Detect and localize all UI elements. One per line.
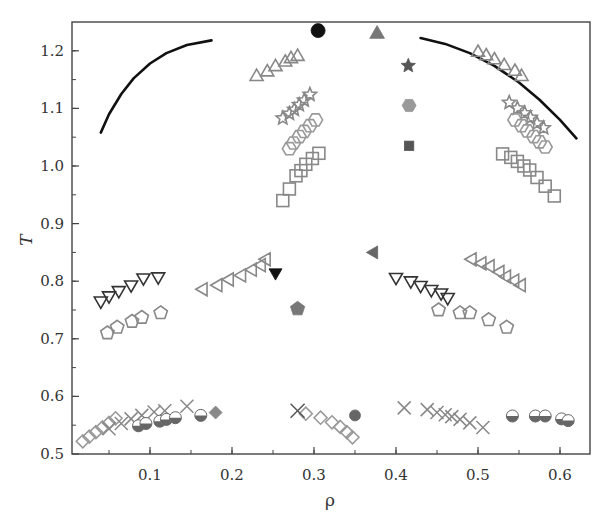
- triangle-down-marker: [390, 273, 403, 284]
- half-circle-marker: [539, 410, 551, 422]
- circle-marker: [311, 24, 325, 38]
- series-circle: [311, 24, 325, 38]
- pentagon-marker: [482, 313, 495, 326]
- triangle-down-marker: [94, 297, 107, 308]
- series-triangle-left: [196, 253, 525, 296]
- square-marker: [277, 195, 289, 207]
- series-hexagon: [402, 99, 416, 111]
- half-circle-marker: [169, 412, 181, 424]
- x-tick-label: 0.5: [466, 466, 490, 484]
- half-circle-marker: [562, 415, 574, 427]
- pentagon-marker: [290, 301, 304, 315]
- series-square: [404, 141, 413, 150]
- series-pentagon: [290, 301, 304, 315]
- coexistence-curve: [421, 38, 577, 138]
- square-marker: [404, 141, 413, 150]
- x-tick-label: 0.3: [302, 466, 326, 484]
- triangle-down-marker: [137, 274, 150, 285]
- triangle-left-marker: [222, 273, 233, 286]
- pentagon-marker: [463, 306, 476, 319]
- triangle-left-marker: [196, 283, 207, 296]
- pentagon-marker: [500, 320, 513, 333]
- x-tick-label: 0.4: [384, 466, 408, 484]
- x-marker: [180, 400, 193, 413]
- triangle-down-marker: [152, 273, 165, 284]
- triangle-left-marker: [366, 246, 377, 259]
- series-circle: [350, 410, 361, 421]
- series-triangle-left: [366, 246, 377, 259]
- pentagon-marker: [111, 320, 124, 333]
- triangle-down-marker: [125, 281, 138, 292]
- x-axis-label: ρ: [325, 490, 335, 510]
- y-tick-label: 0.6: [40, 387, 64, 405]
- x-marker: [476, 421, 489, 434]
- star-marker: [401, 58, 415, 72]
- y-tick-label: 0.8: [40, 272, 64, 290]
- y-axis-label: T: [16, 233, 36, 246]
- y-tick-label: 1.1: [40, 99, 64, 117]
- coexistence-curves: [101, 38, 577, 138]
- plot-frame: [72, 22, 590, 454]
- y-tick-label: 0.7: [40, 330, 64, 348]
- x-tick-label: 0.2: [220, 466, 244, 484]
- square-marker: [283, 183, 295, 195]
- series-pentagon: [101, 303, 514, 339]
- triangle-left-marker: [234, 269, 245, 282]
- square-marker: [313, 147, 325, 159]
- half-circle-marker: [140, 418, 152, 430]
- x-marker: [421, 403, 434, 416]
- x-tick-label: 0.6: [548, 466, 572, 484]
- x-tick-label: 0.1: [138, 466, 162, 484]
- triangle-down-marker: [441, 294, 454, 305]
- series-triangle-up: [370, 26, 385, 39]
- hexagon-marker: [538, 141, 552, 153]
- circle-marker: [350, 410, 361, 421]
- x-marker: [431, 406, 444, 419]
- series-star: [401, 58, 415, 72]
- coexistence-curve: [101, 40, 212, 132]
- pentagon-marker: [154, 306, 167, 319]
- triangle-up-marker: [370, 26, 385, 39]
- y-tick-label: 0.5: [40, 445, 64, 463]
- series-square: [277, 147, 560, 206]
- phase-diagram-chart: 0.10.20.30.40.50.60.50.60.70.80.91.01.11…: [0, 0, 608, 525]
- pentagon-marker: [135, 311, 148, 324]
- data-markers: [76, 24, 574, 448]
- hexagon-marker: [402, 99, 416, 111]
- pentagon-marker: [432, 303, 445, 316]
- y-tick-label: 1.2: [40, 42, 64, 60]
- square-marker: [548, 190, 560, 202]
- half-circle-marker: [195, 409, 207, 421]
- y-tick-label: 0.9: [40, 215, 64, 233]
- y-tick-label: 1.0: [40, 157, 64, 175]
- diamond-marker: [209, 406, 222, 419]
- half-circle-marker: [506, 410, 518, 422]
- series-diamond: [209, 406, 222, 419]
- series-triangle-down: [269, 269, 282, 280]
- x-marker: [463, 416, 476, 429]
- triangle-left-marker: [211, 279, 222, 292]
- triangle-down-marker: [269, 269, 282, 280]
- x-marker: [398, 401, 411, 414]
- hexagon-marker: [309, 114, 323, 126]
